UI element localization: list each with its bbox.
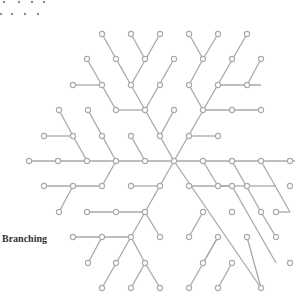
node-circle (186, 285, 191, 290)
node-circle (113, 158, 118, 163)
node-circle (157, 234, 162, 239)
edge (59, 186, 73, 212)
diagram-label: Branching (2, 233, 47, 244)
node-circle (200, 56, 205, 61)
edge (102, 161, 116, 186)
node-circle (171, 56, 176, 61)
node-circle (229, 158, 234, 163)
node-circle (70, 234, 75, 239)
node-circle (99, 285, 104, 290)
node-circle (142, 209, 147, 214)
node-circle (99, 133, 104, 138)
node-circle (273, 209, 278, 214)
edge (189, 59, 203, 85)
node-circle (229, 56, 234, 61)
node-circle (142, 56, 147, 61)
node-circle (200, 260, 205, 265)
edge (247, 59, 261, 85)
node-circle (41, 133, 46, 138)
node-circle (258, 56, 263, 61)
node-circle (215, 133, 220, 138)
node-circle (258, 285, 263, 290)
dot (24, 13, 26, 15)
node-circle (41, 183, 46, 188)
node-circle (113, 260, 118, 265)
node-circle (128, 133, 133, 138)
edge (145, 212, 160, 237)
node-circle (99, 234, 104, 239)
edge (189, 34, 203, 59)
node-circle (113, 209, 118, 214)
node-circle (258, 209, 263, 214)
node-circle (229, 183, 234, 188)
node-circle (142, 260, 147, 265)
node-circle (157, 183, 162, 188)
node-circle (258, 107, 263, 112)
dot (18, 1, 20, 3)
edge (203, 161, 218, 186)
node-circle (200, 158, 205, 163)
edge (261, 212, 276, 237)
node-circle (215, 183, 220, 188)
node-circle (142, 158, 147, 163)
edge (131, 34, 145, 59)
node-circle (287, 158, 292, 163)
edge (203, 34, 218, 59)
node-circle (215, 285, 220, 290)
snowflake-graph (0, 0, 295, 295)
node-circle (157, 285, 162, 290)
node-circle (128, 183, 133, 188)
edge (189, 212, 203, 237)
node-circle (157, 82, 162, 87)
dot (0, 13, 2, 15)
node-circle (287, 183, 292, 188)
edge (174, 161, 261, 288)
node-circle (128, 285, 133, 290)
node-circle (99, 82, 104, 87)
node-circle (85, 260, 90, 265)
node-circle (56, 107, 61, 112)
node-circle (287, 260, 292, 265)
node-circle (56, 209, 61, 214)
node-circle (84, 56, 89, 61)
node-circle (26, 158, 31, 163)
edge (174, 34, 247, 161)
dot (3, 1, 5, 3)
edge (73, 136, 87, 161)
node-circle (55, 158, 60, 163)
node-circle (157, 31, 162, 36)
edge (160, 110, 174, 136)
node-circle (113, 56, 118, 61)
node-circle (273, 234, 278, 239)
node-circle (186, 234, 191, 239)
edge (59, 110, 73, 136)
node-circle (229, 107, 234, 112)
edge (102, 161, 174, 288)
dot (11, 13, 13, 15)
edge (218, 263, 232, 288)
node-circle (244, 31, 249, 36)
node-circle (84, 209, 89, 214)
node-circle (171, 107, 176, 112)
dot (43, 1, 45, 3)
node-circle (171, 158, 176, 163)
node-circle (186, 133, 191, 138)
node-circle (84, 158, 89, 163)
node-circle (229, 260, 234, 265)
node-circle (244, 234, 249, 239)
node-circle (128, 31, 133, 36)
node-circle (186, 31, 191, 36)
edge (88, 237, 102, 263)
node-circle (113, 107, 118, 112)
branching-diagram (0, 0, 295, 295)
decorative-dots (0, 1, 45, 15)
dot (37, 13, 39, 15)
node-circle (85, 107, 90, 112)
node-circle (128, 82, 133, 87)
node-circle (244, 82, 249, 87)
node-circle (186, 183, 191, 188)
node-circle (70, 133, 75, 138)
node-circle (142, 107, 147, 112)
node-circle (70, 82, 75, 87)
node-circle (244, 183, 249, 188)
